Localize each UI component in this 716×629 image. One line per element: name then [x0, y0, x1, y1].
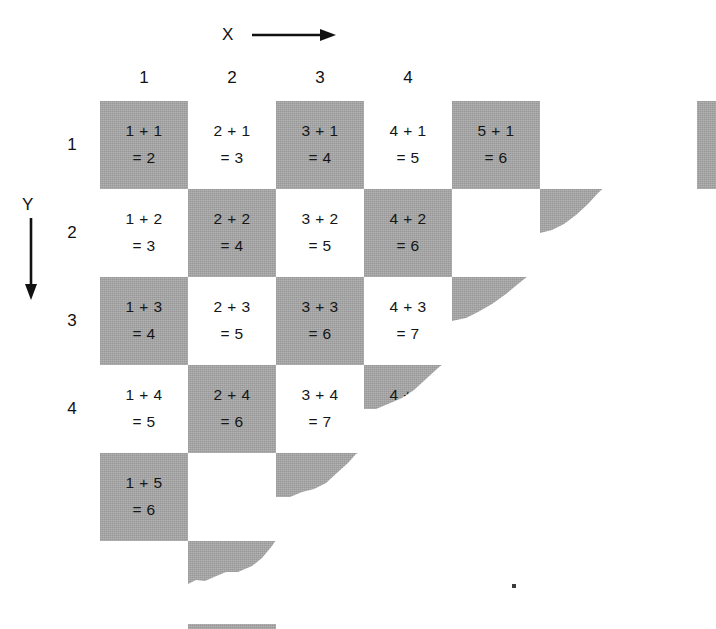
- cell-operands: 2 + 4: [188, 381, 276, 408]
- cell-result: = 7: [276, 408, 364, 435]
- grid-cell-c3-r4: 3 + 4= 7: [276, 365, 364, 453]
- cell-equation: 4 + 2= 6: [364, 205, 452, 259]
- cell-equation: 3 + 2= 5: [276, 205, 364, 259]
- cell-equation: 3 + 4= 7: [276, 381, 364, 435]
- cell-equation: 3 + 1= 4: [276, 117, 364, 171]
- cell-result: = 3: [100, 232, 188, 259]
- grid-cell-c6-r1: [540, 101, 628, 189]
- cell-result: = 6: [364, 232, 452, 259]
- grid-cell-c2-r2: 2 + 2= 4: [188, 189, 276, 277]
- grid-cell-c2-r6: [188, 541, 276, 629]
- cell-result: = 2: [100, 144, 188, 171]
- cell-equation: 4 + 1= 5: [364, 117, 452, 171]
- cell-equation: 2 + 1= 3: [188, 117, 276, 171]
- cell-operands: 3 + 4: [276, 381, 364, 408]
- cell-equation: 1 + 2= 3: [100, 205, 188, 259]
- cell-result: = 5: [100, 408, 188, 435]
- cell-result: = 5: [276, 232, 364, 259]
- cell-result: = 4: [100, 320, 188, 347]
- cell-equation: 4 + 3= 7: [364, 293, 452, 347]
- grid-cell-c2-r5: [188, 453, 276, 541]
- cell-result: = 6: [188, 408, 276, 435]
- cell-operands: 5 + 1: [452, 117, 540, 144]
- cell-operands: 1 + 3: [100, 293, 188, 320]
- grid-cell-c1-r2: 1 + 2= 3: [100, 189, 188, 277]
- grid-cell-c4-r3: 4 + 3= 7: [364, 277, 452, 365]
- cell-equation: 1 + 4= 5: [100, 381, 188, 435]
- cell-operands: 3 + 3: [276, 293, 364, 320]
- cell-operands: 4 + 3: [364, 293, 452, 320]
- grid-cell-c3-r2: 3 + 2= 5: [276, 189, 364, 277]
- cell-result: = 4: [276, 144, 364, 171]
- cell-equation: 2 + 2= 4: [188, 205, 276, 259]
- cell-equation: 5 + 1= 6: [452, 117, 540, 171]
- grid-cell-c2-r1: 2 + 1= 3: [188, 101, 276, 189]
- grid-cell-c1-r3: 1 + 3= 4: [100, 277, 188, 365]
- cell-operands: 3 + 1: [276, 117, 364, 144]
- cell-operands: 2 + 1: [188, 117, 276, 144]
- cell-operands: 4 + 1: [364, 117, 452, 144]
- cell-result: = 4: [188, 232, 276, 259]
- grid-cell-c3-r5: [276, 453, 364, 541]
- cell-result: = 7: [364, 320, 452, 347]
- grid-cell-c4-r1: 4 + 1= 5: [364, 101, 452, 189]
- page-speck: [512, 584, 516, 588]
- grid-cell-c2-r3: 2 + 3= 5: [188, 277, 276, 365]
- cell-equation: 1 + 5= 6: [100, 469, 188, 523]
- cell-operands: 1 + 2: [100, 205, 188, 232]
- cell-operands: 4 + 4: [364, 381, 452, 408]
- cell-operands: 2 + 3: [188, 293, 276, 320]
- cell-operands: 1 + 4: [100, 381, 188, 408]
- cell-operands: 3 + 2: [276, 205, 364, 232]
- grid-cell-c1-r5: 1 + 5= 6: [100, 453, 188, 541]
- cell-equation: 1 + 1= 2: [100, 117, 188, 171]
- cell-operands: 1 + 1: [100, 117, 188, 144]
- cell-result: = 6: [452, 144, 540, 171]
- cell-result: = 6: [276, 320, 364, 347]
- cell-equation: 4 + 4= 8: [364, 381, 452, 435]
- cell-result: = 3: [188, 144, 276, 171]
- cell-equation: 1 + 3= 4: [100, 293, 188, 347]
- grid-cell-c4-r4: 4 + 4= 8: [364, 365, 452, 453]
- grid-cell-c5-r3: [452, 277, 540, 365]
- grid-cell-c3-r3: 3 + 3= 6: [276, 277, 364, 365]
- grid-cell-c2-r4: 2 + 4= 6: [188, 365, 276, 453]
- grid-cell-c6-r2: [540, 189, 628, 277]
- cell-result: = 8: [364, 408, 452, 435]
- cell-operands: 2 + 2: [188, 205, 276, 232]
- cell-result: = 6: [100, 496, 188, 523]
- cell-operands: 1 + 5: [100, 469, 188, 496]
- grid-cell-c1-r1: 1 + 1= 2: [100, 101, 188, 189]
- grid-cell-c5-r2: [452, 189, 540, 277]
- grid-cell-c4-r2: 4 + 2= 6: [364, 189, 452, 277]
- cell-result: = 5: [188, 320, 276, 347]
- grid-cell-c3-r1: 3 + 1= 4: [276, 101, 364, 189]
- grid-cell-c5-r1: 5 + 1= 6: [452, 101, 540, 189]
- cell-equation: 3 + 3= 6: [276, 293, 364, 347]
- cell-operands: 4 + 2: [364, 205, 452, 232]
- grid-cell-c1-r4: 1 + 4= 5: [100, 365, 188, 453]
- cell-equation: 2 + 3= 5: [188, 293, 276, 347]
- cell-result: = 5: [364, 144, 452, 171]
- grid-cell-c7-r1: [628, 101, 716, 189]
- cell-equation: 2 + 4= 6: [188, 381, 276, 435]
